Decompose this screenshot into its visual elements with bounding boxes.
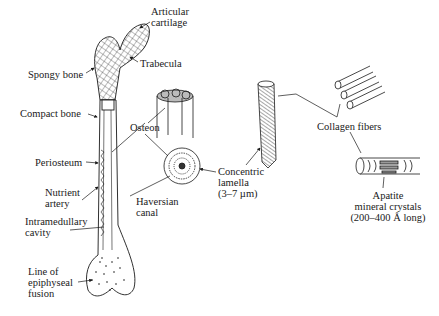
label-compact-bone: Compact bone: [20, 108, 81, 119]
label-haversian-canal: Haversian canal: [136, 196, 179, 218]
apatite-fibril: [356, 158, 420, 174]
label-periosteum: Periosteum: [35, 157, 82, 168]
label-nutrient-artery: Nutrient artery: [45, 187, 80, 209]
label-trabecula: Trabecula: [140, 58, 182, 69]
label-intramedullary-cavity: Intramedullary cavity: [25, 216, 87, 238]
label-concentric-lamella: Concentric lamella (3–7 µm): [218, 166, 264, 199]
collagen-fibrils: [335, 66, 385, 109]
label-osteon: Osteon: [130, 122, 160, 133]
label-apatite-crystals: Apatite mineral crystals (200–400 Å long…: [343, 190, 433, 223]
label-line-of-epiphyseal-fusion: Line of epiphyseal fusion: [28, 266, 73, 299]
label-collagen-fibers: Collagen fibers: [317, 121, 381, 132]
osteon-bundle: [157, 89, 193, 138]
concentric-lamella-cylinder: [258, 81, 276, 168]
osteon-cross-section: [164, 148, 200, 184]
label-spongy-bone: Spongy bone: [28, 69, 83, 80]
label-articular-cartilage: Articular cartilage: [151, 6, 189, 28]
bone-structure-diagram: Articular cartilage Trabecula Spongy bon…: [0, 0, 439, 316]
